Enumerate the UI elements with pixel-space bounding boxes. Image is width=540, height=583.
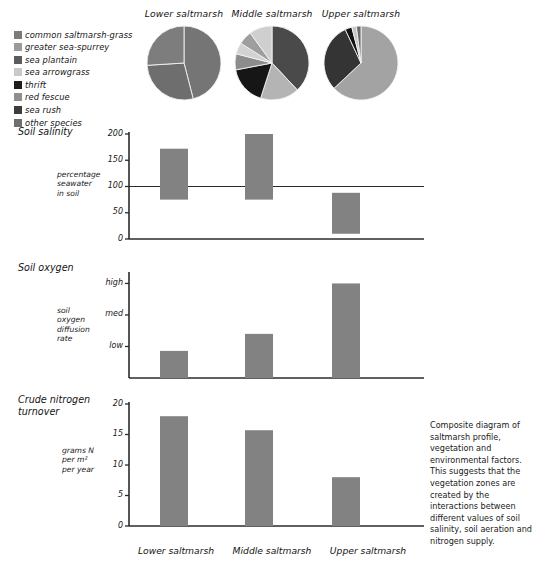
bar xyxy=(245,430,273,526)
x-axis-label: Lower saltmarsh xyxy=(128,545,224,556)
y-axis-tick-label: 0 xyxy=(83,234,123,243)
pie-chart-column: Upper saltmarsh xyxy=(317,8,405,102)
bar xyxy=(160,351,188,378)
legend-item-label: common saltmarsh-grass xyxy=(25,30,133,40)
legend-color-swatch xyxy=(14,43,22,51)
y-axis-tick-label: high xyxy=(83,278,123,287)
y-axis-tick-label: 200 xyxy=(83,129,123,138)
pie-chart-title: Upper saltmarsh xyxy=(317,8,405,19)
bar xyxy=(332,283,360,378)
legend-color-swatch xyxy=(14,68,22,76)
y-axis-tick-label: 5 xyxy=(83,490,123,499)
pie-chart-canvas xyxy=(317,24,405,102)
pie-chart-title: Lower saltmarsh xyxy=(140,8,228,19)
pie-slice xyxy=(147,26,184,65)
y-axis-tick-label: 150 xyxy=(83,155,123,164)
legend-item-label: red fescue xyxy=(25,92,70,102)
legend-color-swatch xyxy=(14,81,22,89)
pie-chart-column: Middle saltmarsh xyxy=(228,8,316,102)
y-axis-tick-label: 50 xyxy=(83,207,123,216)
x-axis-label: Upper saltmarsh xyxy=(320,545,416,556)
legend-item-label: thrift xyxy=(25,80,46,90)
y-axis-tick-label: med xyxy=(83,309,123,318)
y-axis-tick-label: 10 xyxy=(83,460,123,469)
pie-chart-row: Lower saltmarshMiddle saltmarshUpper sal… xyxy=(140,8,405,116)
legend-item: sea arrowgrass xyxy=(14,67,142,78)
chart-soil-oxygen: Soil oxygensoil oxygen diffusion ratelow… xyxy=(0,258,430,386)
y-axis-tick-label: 100 xyxy=(83,181,123,190)
y-axis-tick-label: 0 xyxy=(83,521,123,530)
legend-item: thrift xyxy=(14,79,142,90)
legend-item-label: greater sea-spurrey xyxy=(25,42,109,52)
pie-chart-title: Middle saltmarsh xyxy=(228,8,316,19)
figure-caption: Composite diagram of saltmarsh profile, … xyxy=(430,420,534,548)
x-axis-label: Middle saltmarsh xyxy=(224,545,320,556)
range-bar xyxy=(332,193,360,234)
y-axis-tick-label: 20 xyxy=(83,399,123,408)
legend-color-swatch xyxy=(14,56,22,64)
legend-item-label: sea plantain xyxy=(25,55,77,65)
range-bar xyxy=(160,149,188,200)
legend-item: greater sea-spurrey xyxy=(14,42,142,53)
y-axis-tick-label: low xyxy=(83,341,123,350)
legend-color-swatch xyxy=(14,31,22,39)
bar xyxy=(245,334,273,378)
pie-chart-canvas xyxy=(140,24,228,102)
legend-item: red fescue xyxy=(14,92,142,103)
composite-saltmarsh-diagram: common saltmarsh-grassgreater sea-spurre… xyxy=(0,0,540,583)
pie-chart-canvas xyxy=(228,24,316,102)
legend-item: sea plantain xyxy=(14,54,142,65)
legend-item: common saltmarsh-grass xyxy=(14,29,142,40)
species-legend: common saltmarsh-grassgreater sea-spurre… xyxy=(14,29,142,130)
legend-color-swatch xyxy=(14,106,22,114)
legend-item-label: sea rush xyxy=(25,105,61,115)
range-bar xyxy=(245,134,273,200)
x-axis-category-labels: Lower saltmarshMiddle saltmarshUpper sal… xyxy=(128,545,418,561)
bar xyxy=(332,477,360,526)
y-axis-tick-label: 15 xyxy=(83,429,123,438)
legend-item-label: sea arrowgrass xyxy=(25,67,90,77)
legend-color-swatch xyxy=(14,93,22,101)
legend-item: sea rush xyxy=(14,105,142,116)
chart-plot-area xyxy=(0,126,540,256)
chart-crude-nitrogen-turnover: Crude nitrogen turnovergrams N per m² pe… xyxy=(0,394,430,536)
pie-chart-column: Lower saltmarsh xyxy=(140,8,228,102)
chart-plot-area xyxy=(0,258,540,386)
bar xyxy=(160,416,188,526)
chart-soil-salinity: Soil salinitypercentage seawater in soil… xyxy=(0,126,430,256)
